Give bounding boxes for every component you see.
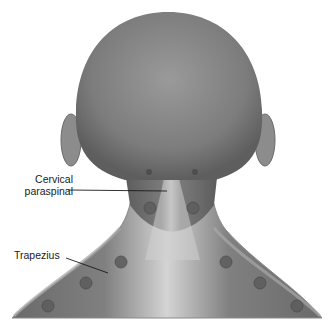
cervical-paraspinal-label: Cervical paraspinal bbox=[2, 173, 73, 197]
cervical-label-line2: paraspinal bbox=[2, 185, 73, 197]
cervical-label-line1: Cervical bbox=[2, 173, 73, 185]
trapezius-label: Trapezius bbox=[14, 249, 60, 261]
anatomy-illustration bbox=[0, 0, 332, 323]
head bbox=[76, 12, 262, 180]
